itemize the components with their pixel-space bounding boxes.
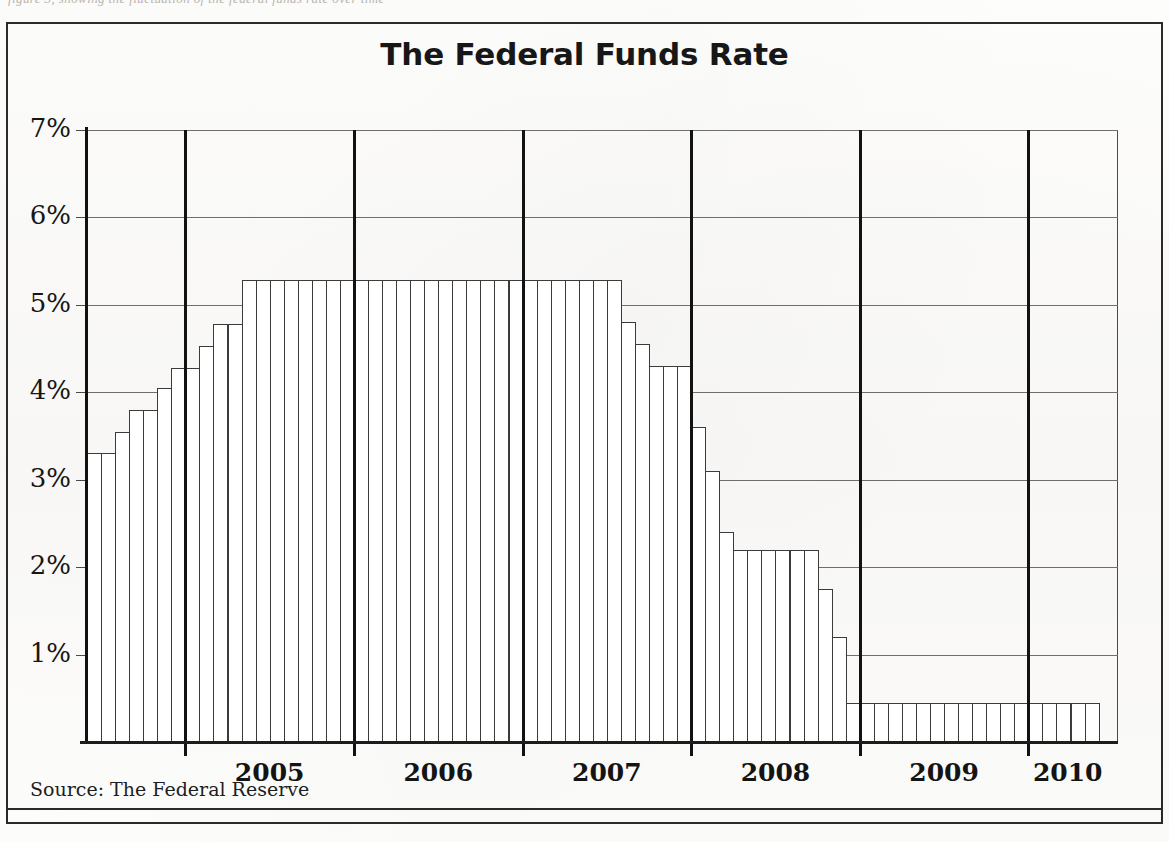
bar [565,280,580,742]
bar [494,280,509,742]
bar [452,280,467,742]
bar [691,427,706,742]
year-tick-2007 [522,742,525,756]
bar [537,280,552,742]
year-divider-2007 [522,130,525,742]
bar [199,346,214,742]
bar [790,550,805,742]
bar [649,366,664,742]
chart-title: The Federal Funds Rate [8,36,1161,72]
year-divider-2008 [690,130,693,742]
y-axis-line [85,127,88,742]
bar [157,388,172,742]
bar [832,637,847,742]
x-axis-year-label-2010: 2010 [988,758,1148,787]
source-note: Source: The Federal Reserve [30,778,309,800]
bar [930,703,945,742]
year-divider-2006 [353,130,356,742]
bar [143,410,158,742]
bar [101,453,116,742]
bar [972,703,987,742]
y-axis-label: 2% [1,550,71,580]
bar [761,550,776,742]
x-axis-year-label-2008: 2008 [695,758,855,787]
bar [87,453,102,742]
bar [424,280,439,742]
bar [298,280,313,742]
plot-right-border [1117,130,1118,742]
bar [213,324,228,742]
bar [551,280,566,742]
bar [621,322,636,742]
year-tick-2009 [859,742,862,756]
bar [944,703,959,742]
bar [326,280,341,742]
bar [663,366,678,742]
bar [958,703,973,742]
gridline-7 [87,130,1118,131]
bar [874,703,889,742]
y-axis-label: 4% [1,375,71,405]
bar [733,550,748,742]
year-tick-2010 [1027,742,1030,756]
bar [354,280,369,742]
bar [480,280,495,742]
bar [1042,703,1057,742]
bar [1028,703,1043,742]
bar [115,432,130,742]
bar [747,550,762,742]
year-divider-2009 [859,130,862,742]
y-axis-label: 7% [1,113,71,143]
bar [719,532,734,742]
bar [986,703,1001,742]
year-divider-2005 [184,130,187,742]
bar [228,324,243,742]
year-tick-2005 [184,742,187,756]
bar [312,280,327,742]
bar [1000,703,1015,742]
bar [818,589,833,742]
year-tick-2008 [690,742,693,756]
bar [1056,703,1071,742]
bar [284,280,299,742]
bar [270,280,285,742]
bar [129,410,144,742]
bar [1085,703,1100,742]
bar [775,550,790,742]
bar [382,280,397,742]
bar [593,280,608,742]
bar [916,703,931,742]
x-axis-line [80,741,1118,744]
bar [242,280,257,742]
bar [396,280,411,742]
bar [860,703,875,742]
source-rule [8,808,1161,810]
year-divider-2010 [1027,130,1030,742]
bar [888,703,903,742]
gridline-6 [87,217,1118,218]
bar [410,280,425,742]
bar [579,280,594,742]
y-axis-label: 5% [1,288,71,318]
y-axis-label: 6% [1,200,71,230]
bar [368,280,383,742]
y-axis-label: 3% [1,463,71,493]
x-axis-year-label-2007: 2007 [527,758,687,787]
bar [523,280,538,742]
bar [607,280,622,742]
bar [635,344,650,742]
year-tick-2006 [353,742,356,756]
bar [1071,703,1086,742]
bar [902,703,917,742]
bar [438,280,453,742]
y-axis-label: 1% [1,638,71,668]
chart-figure: The Federal Funds Rate 1%2%3%4%5%6%7% 20… [6,22,1163,824]
bar [466,280,481,742]
bar [705,471,720,742]
bar [185,368,200,742]
bar [256,280,271,742]
bar [804,550,819,742]
cropped-text-above-figure: figure 3, showing the fluctuation of the… [8,0,1158,16]
x-axis-year-label-2006: 2006 [358,758,518,787]
plot-area: 1%2%3%4%5%6%7% 200520062007200820092010 [87,130,1118,742]
